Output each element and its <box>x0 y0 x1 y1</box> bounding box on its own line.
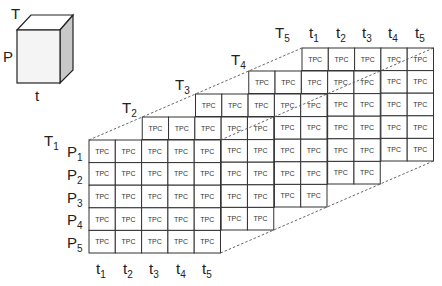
top-col-label-5: t5 <box>415 24 425 44</box>
tpc-cell-label: TPC <box>281 79 295 86</box>
tpc-cell-label: TPC <box>334 101 348 108</box>
row-label-5: P5 <box>67 234 83 254</box>
cube-icon <box>17 15 73 83</box>
tpc-cell-label: TPC <box>227 170 241 177</box>
tpc-cell-label: TPC <box>254 102 268 109</box>
tpc-cell-label: TPC <box>281 102 295 109</box>
tpc-cell-label: TPC <box>334 147 348 154</box>
tpc-cell-label: TPC <box>95 170 109 177</box>
tpc-cell-label: TPC <box>148 170 162 177</box>
tpc-cell-label: TPC <box>174 193 188 200</box>
bottom-col-label-3: t3 <box>149 260 159 280</box>
tpc-cell-label: TPC <box>254 193 268 200</box>
tpc-cell-label: TPC <box>413 78 427 85</box>
tpc-cell-label: TPC <box>201 125 215 132</box>
layer-label-4: T4 <box>231 51 246 71</box>
tpc-cell-label: TPC <box>281 192 295 199</box>
tpc-cell-label: TPC <box>202 102 216 109</box>
bottom-col-label-5: t5 <box>202 260 212 280</box>
tpc-diagram: T P t TPCTPCTPCTPCTPCTPCTPCTPCTPCTPCTPCT… <box>0 0 442 286</box>
layer-label-2: T2 <box>122 99 137 119</box>
tpc-cell-label: TPC <box>200 193 214 200</box>
tpc-cell-label: TPC <box>228 102 242 109</box>
tpc-cell-label: TPC <box>413 124 427 131</box>
tpc-cell-label: TPC <box>308 56 322 63</box>
tpc-cell-label: TPC <box>387 101 401 108</box>
tpc-cell-label: TPC <box>360 169 374 176</box>
tpc-cell-label: TPC <box>334 169 348 176</box>
tpc-cell-label: TPC <box>413 101 427 108</box>
cube-label-bottom: t <box>35 87 40 104</box>
tpc-cell-label: TPC <box>121 216 135 223</box>
tpc-cell-label: TPC <box>227 125 241 132</box>
layer-label-5: T5 <box>275 24 290 44</box>
bottom-col-label-1: t1 <box>96 260 106 280</box>
tpc-cell-label: TPC <box>255 79 269 86</box>
tpc-cell-label: TPC <box>281 147 295 154</box>
top-col-label-4: t4 <box>388 24 398 44</box>
tpc-cell-label: TPC <box>95 193 109 200</box>
tpc-cell-label: TPC <box>121 193 135 200</box>
tpc-cell-label: TPC <box>148 148 162 155</box>
tpc-cell-label: TPC <box>148 216 162 223</box>
top-col-labels: t1 t2 t3 t4 t5 <box>309 24 425 44</box>
tpc-cell-label: TPC <box>254 125 268 132</box>
row-label-4: P4 <box>67 211 83 231</box>
tpc-cell-label: TPC <box>281 170 295 177</box>
tpc-cell-label: TPC <box>148 193 162 200</box>
tpc-cell-label: TPC <box>121 148 135 155</box>
tpc-cell-label: TPC <box>227 215 241 222</box>
tpc-cell-label: TPC <box>200 216 214 223</box>
tpc-cell-label: TPC <box>361 56 375 63</box>
tpc-cell-label: TPC <box>281 124 295 131</box>
cube-label-left: P <box>3 48 13 65</box>
tpc-cell-label: TPC <box>174 216 188 223</box>
cube-label-top: T <box>11 5 20 22</box>
tpc-cell-label: TPC <box>387 56 401 63</box>
tpc-cell-label: TPC <box>174 238 188 245</box>
layer-grid-1: TPCTPCTPCTPCTPCTPCTPCTPCTPCTPCTPCTPCTPCT… <box>89 140 221 253</box>
row-label-3: P3 <box>67 189 83 209</box>
row-labels: P1 P2 P3 P4 P5 <box>67 143 83 254</box>
tpc-cell-label: TPC <box>95 216 109 223</box>
tpc-cell-label: TPC <box>148 125 162 132</box>
tpc-cell-label: TPC <box>307 170 321 177</box>
tpc-cell-label: TPC <box>307 102 321 109</box>
tpc-cell-label: TPC <box>360 101 374 108</box>
top-col-label-3: t3 <box>362 24 372 44</box>
tpc-cell-label: TPC <box>254 170 268 177</box>
tpc-cell-label: TPC <box>95 148 109 155</box>
tpc-cell-label: TPC <box>360 124 374 131</box>
tpc-cell-label: TPC <box>387 124 401 131</box>
tpc-cell-label: TPC <box>360 147 374 154</box>
bottom-col-labels: t1 t2 t3 t4 t5 <box>96 260 212 280</box>
tpc-cell-label: TPC <box>200 170 214 177</box>
layer-label-3: T3 <box>175 76 190 96</box>
tpc-layers: TPCTPCTPCTPCTPCTPCTPCTPCTPCTPCTPCTPCTPCT… <box>89 48 434 253</box>
tpc-cell-label: TPC <box>174 148 188 155</box>
tpc-cell-label: TPC <box>254 147 268 154</box>
bottom-col-label-4: t4 <box>176 260 186 280</box>
bottom-col-label-2: t2 <box>123 260 133 280</box>
tpc-cell-label: TPC <box>413 146 427 153</box>
tpc-cell-label: TPC <box>413 56 427 63</box>
tpc-cell-label: TPC <box>308 79 322 86</box>
tpc-cell-label: TPC <box>334 56 348 63</box>
row-label-1: P1 <box>67 143 83 163</box>
tpc-cell-label: TPC <box>175 125 189 132</box>
top-col-label-1: t1 <box>309 24 319 44</box>
tpc-cell-label: TPC <box>200 238 214 245</box>
top-col-label-2: t2 <box>336 24 346 44</box>
tpc-cell-label: TPC <box>387 146 401 153</box>
tpc-cell-label: TPC <box>200 148 214 155</box>
tpc-cell-label: TPC <box>307 124 321 131</box>
tpc-cell-label: TPC <box>227 147 241 154</box>
tpc-cell-label: TPC <box>121 238 135 245</box>
tpc-cell-label: TPC <box>148 238 162 245</box>
tpc-cell-label: TPC <box>254 215 268 222</box>
tpc-cell-label: TPC <box>95 238 109 245</box>
tpc-cell-label: TPC <box>307 192 321 199</box>
tpc-cell-label: TPC <box>174 170 188 177</box>
tpc-cell-label: TPC <box>121 170 135 177</box>
tpc-cell-label: TPC <box>227 193 241 200</box>
